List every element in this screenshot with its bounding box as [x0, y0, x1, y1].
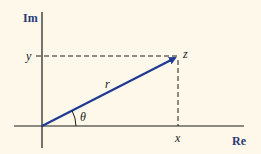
modulus-label: r	[105, 77, 110, 91]
angle-theta-label: θ	[80, 110, 86, 124]
y-label: y	[25, 49, 32, 63]
x-label: x	[174, 131, 181, 145]
point-z-label: z	[182, 47, 188, 61]
imaginary-axis-label: Im	[23, 11, 38, 25]
complex-plane-diagram: Im Re y x z r θ	[0, 0, 261, 154]
real-axis-label: Re	[232, 134, 247, 148]
angle-arc	[72, 111, 76, 126]
modulus-vector	[42, 58, 175, 126]
